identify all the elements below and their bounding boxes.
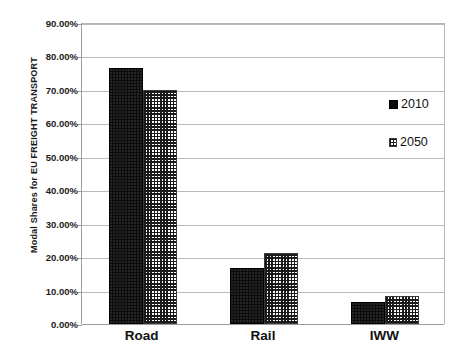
bar-iww-2050 <box>385 296 419 324</box>
bar-road-2050 <box>143 90 177 324</box>
legend-label-2050: 2050 <box>400 135 428 149</box>
gridline-0.00 <box>82 324 444 325</box>
y-axis-tick-labels: 0.00%10.00%20.00%30.00%40.00%50.00%60.00… <box>22 0 78 360</box>
bar-chart: Modal Shares for EU FREIGHT TRANSPORT 0.… <box>0 0 461 360</box>
y-tick-label: 20.00% <box>22 252 78 263</box>
bar-rail-2050 <box>264 253 298 324</box>
x-axis-category-labels: RoadRailIWW <box>81 328 445 354</box>
bars-layer <box>82 24 444 324</box>
y-tick-label: 70.00% <box>22 84 78 95</box>
x-category-label-road: Road <box>125 328 159 343</box>
y-tick-label: 90.00% <box>22 18 78 29</box>
y-tick-label: 0.00% <box>22 319 78 330</box>
bar-road-2010 <box>109 68 143 324</box>
y-tick-label: 60.00% <box>22 118 78 129</box>
x-category-label-iww: IWW <box>370 328 399 343</box>
legend-entry-2050: 2050 <box>389 135 428 149</box>
plot-area: 20102050 <box>81 23 445 324</box>
y-tick-label: 80.00% <box>22 51 78 62</box>
legend-swatch-2050-icon <box>389 138 397 147</box>
x-category-label-rail: Rail <box>251 328 276 343</box>
legend-label-2010: 2010 <box>401 97 429 111</box>
y-tick-label: 40.00% <box>22 185 78 196</box>
bar-rail-2010 <box>230 268 264 324</box>
bar-iww-2010 <box>351 302 385 324</box>
legend-swatch-2010-icon <box>389 100 398 109</box>
y-tickmark <box>78 325 82 326</box>
y-tick-label: 30.00% <box>22 218 78 229</box>
y-tick-label: 50.00% <box>22 151 78 162</box>
y-tick-label: 10.00% <box>22 285 78 296</box>
legend-entry-2010: 2010 <box>389 97 429 111</box>
